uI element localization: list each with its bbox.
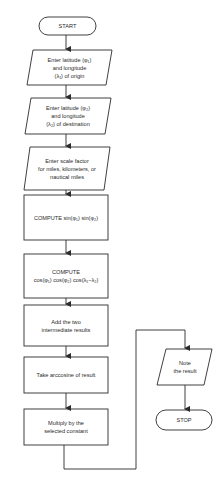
input-origin: Enter latitude (φ₁) and longitude (λ₁) o… <box>30 50 109 85</box>
stop-label: STOP <box>176 416 191 424</box>
stop-terminator: STOP <box>156 410 212 430</box>
process-add: Add the two intermediate results <box>24 305 108 346</box>
process-multiply-label: Multiply by the selected constant <box>44 419 88 435</box>
start-terminator: START <box>39 17 96 35</box>
process-cos: COMPUTE cos(φ₁) cos(φ₂) cos(λ₁−λ₂) <box>24 254 108 298</box>
process-arccos: Take arccosine of result <box>24 357 108 393</box>
input-origin-label: Enter latitude (φ₁) and longitude (λ₁) o… <box>48 56 92 80</box>
process-sin-label: COMPUTE sin(φ₁) sin(φ₂) <box>34 214 98 222</box>
input-destination: Enter latitude (φ₂) and longitude (λ₂) o… <box>28 98 108 134</box>
input-scale-label: Enter scale factor for miles, kilometers… <box>38 157 96 181</box>
process-multiply: Multiply by the selected constant <box>24 409 108 445</box>
process-add-label: Add the two intermediate results <box>42 318 91 334</box>
process-cos-label: COMPUTE cos(φ₁) cos(φ₂) cos(λ₁−λ₂) <box>34 268 99 284</box>
process-sin: COMPUTE sin(φ₁) sin(φ₂) <box>24 195 108 240</box>
output-note: Note the result <box>160 349 210 385</box>
input-scale: Enter scale factor for miles, kilometers… <box>24 147 110 190</box>
process-arccos-label: Take arccosine of result <box>37 371 96 379</box>
input-destination-label: Enter latitude (φ₂) and longitude (λ₂) o… <box>46 104 90 128</box>
start-label: START <box>59 22 77 30</box>
output-note-label: Note the result <box>173 359 196 375</box>
